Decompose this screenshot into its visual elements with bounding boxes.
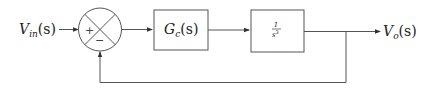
controller-block: Gc(s) [154, 10, 208, 50]
controller-arg: (s) [180, 21, 198, 37]
input-subscript: in [29, 29, 38, 39]
output-label: Vo(s) [383, 23, 417, 41]
plant-denominator-exponent: 3 [276, 29, 279, 35]
svg-text:Vin(s): Vin(s) [19, 21, 56, 39]
input-arg: (s) [38, 21, 56, 37]
svg-text:Gc(s): Gc(s) [164, 21, 198, 39]
summing-junction: + − [79, 8, 122, 51]
svg-text:Vo(s): Vo(s) [383, 23, 417, 41]
plant-block: 1 s3 [251, 10, 304, 52]
plus-sign: + [85, 24, 94, 37]
controller-symbol: G [164, 21, 175, 37]
minus-sign: − [95, 34, 104, 47]
output-arg: (s) [399, 23, 417, 39]
feedback-path [100, 32, 346, 83]
block-diagram: Vin(s) + − Gc(s) 1 s3 Vo(s) [0, 0, 433, 89]
input-label: Vin(s) [19, 21, 56, 39]
plant-numerator: 1 [274, 21, 278, 29]
